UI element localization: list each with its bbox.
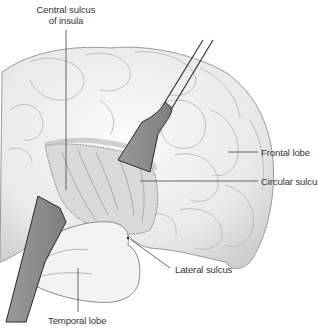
label-lateral-sulcus: Lateral sulcus (175, 264, 232, 275)
label-temporal-lobe: Temporal lobe (48, 315, 106, 326)
label-central-sulcus-line2: of insula (30, 15, 102, 26)
label-central-sulcus-line1: Central sulcus (30, 4, 102, 15)
label-frontal-lobe: Frontal lobe (261, 147, 310, 158)
label-circular-sulcus: Circular sulcus (261, 176, 318, 187)
brain-insula-diagram (0, 0, 318, 329)
lateral-sulcus-pointer-dot (127, 237, 129, 239)
label-central-sulcus-of-insula: Central sulcus of insula (30, 4, 102, 26)
